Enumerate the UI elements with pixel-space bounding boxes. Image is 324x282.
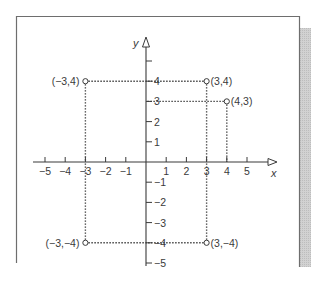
x-axis-arrow-icon <box>268 159 277 166</box>
x-tick-label: 2 <box>183 165 189 177</box>
point-label: (4,3) <box>231 95 253 107</box>
y-tick-label: 4 <box>154 75 160 87</box>
x-tick-label: −5 <box>39 165 51 177</box>
y-tick-label: 2 <box>154 116 160 128</box>
point-marker-icon <box>83 79 88 84</box>
y-tick-label: −4 <box>154 237 166 249</box>
x-tick-label: −1 <box>120 165 132 177</box>
point-label: (−3,4) <box>52 75 80 87</box>
axes <box>33 37 277 266</box>
point-label: (3,−4) <box>211 237 239 249</box>
y-axis-label: y <box>132 37 140 49</box>
x-tick-label: 4 <box>224 165 230 177</box>
point-label: (3,4) <box>211 75 233 87</box>
x-tick-label: 1 <box>163 165 169 177</box>
y-tick-label: −1 <box>154 176 166 188</box>
point-marker-icon <box>204 79 209 84</box>
x-tick-label: −3 <box>79 165 91 177</box>
x-tick-label: 3 <box>204 165 210 177</box>
y-tick-label: −3 <box>154 217 166 229</box>
y-tick-label: −5 <box>154 257 166 269</box>
y-axis-arrow-icon <box>143 37 150 47</box>
x-axis-label: x <box>270 167 277 179</box>
x-tick-label: −4 <box>59 165 71 177</box>
y-tick-label: −2 <box>154 196 166 208</box>
frame-shadow <box>300 28 311 267</box>
x-tick-label: 5 <box>244 165 250 177</box>
y-tick-label: 1 <box>154 136 160 148</box>
y-tick-label: 3 <box>154 95 160 107</box>
point-marker-icon <box>83 240 88 245</box>
coordinate-plane-figure: −5−4−3−2−1123454321−1−2−3−4−5 (−3,4)(3,4… <box>0 0 324 282</box>
point-marker-icon <box>204 240 209 245</box>
point-marker-icon <box>224 99 229 104</box>
point-label: (−3,−4) <box>46 237 80 249</box>
x-tick-label: −2 <box>100 165 112 177</box>
